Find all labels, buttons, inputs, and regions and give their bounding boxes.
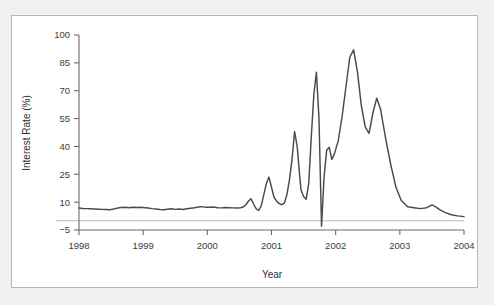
y-tick-label: 25 [59, 169, 70, 180]
x-tick-label: 2004 [453, 240, 474, 251]
line-chart-svg: −5102540557085100 1998199920002001200220… [12, 16, 477, 287]
x-axis-title: Year [262, 269, 283, 280]
x-tick-label: 2001 [261, 240, 282, 251]
interest-rate-series-line [79, 50, 464, 226]
y-tick-label: 40 [59, 141, 70, 152]
screenshot-root: −5102540557085100 1998199920002001200220… [0, 0, 494, 305]
x-tick-label: 2000 [197, 240, 218, 251]
y-tick-label: 70 [59, 85, 70, 96]
y-axis-ticks [74, 35, 79, 230]
y-tick-label: 10 [59, 197, 70, 208]
y-tick-label: 55 [59, 113, 70, 124]
x-tick-label: 2002 [325, 240, 346, 251]
x-axis-tick-labels: 1998199920002001200220032004 [68, 240, 474, 251]
x-tick-label: 2003 [389, 240, 410, 251]
x-tick-label: 1998 [68, 240, 89, 251]
y-tick-label: 100 [54, 29, 70, 40]
y-axis-tick-labels: −5102540557085100 [54, 29, 70, 235]
y-tick-label: 85 [59, 57, 70, 68]
x-axis-ticks [79, 230, 464, 235]
y-tick-label: −5 [59, 224, 70, 235]
y-axis-title: Interest Rate (%) [21, 95, 32, 171]
chart-figure-panel: −5102540557085100 1998199920002001200220… [11, 15, 478, 288]
x-tick-label: 1999 [133, 240, 154, 251]
